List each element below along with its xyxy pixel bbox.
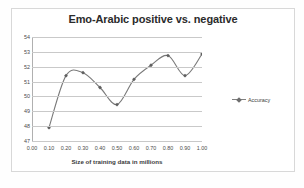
data-point-marker: [183, 74, 187, 78]
y-axis-tick-label: 53: [8, 49, 30, 55]
y-axis-tick-label: 48: [8, 123, 30, 129]
gridline: [32, 126, 202, 127]
y-axis-tick-label: 49: [8, 108, 30, 114]
accuracy-line: [49, 54, 202, 128]
y-axis-tick-label: 52: [8, 64, 30, 70]
gridline: [32, 67, 202, 68]
chart-title: Emo-Arabic positive vs. negative: [11, 13, 295, 25]
y-axis-tick-label: 54: [8, 34, 30, 40]
y-axis-tick-label: 50: [8, 93, 30, 99]
legend-entry-label: Accuracy: [248, 97, 270, 103]
chart-legend: Accuracy: [232, 96, 270, 103]
x-axis-title: Size of training data in millions: [32, 158, 202, 165]
y-axis-tick-label: 47: [8, 138, 30, 144]
gridline: [32, 111, 202, 112]
x-axis-tick-labels: 0.000.100.200.300.400.500.600.700.800.90…: [32, 145, 202, 155]
y-axis-tick-label: 51: [8, 79, 30, 85]
gridline: [32, 96, 202, 97]
gridline: [32, 52, 202, 53]
x-axis-tick-label: 1.00: [189, 145, 215, 151]
gridline: [32, 82, 202, 83]
data-point-marker: [81, 71, 85, 75]
accuracy-markers: [47, 52, 202, 129]
gridline: [32, 141, 202, 142]
y-axis-tick-labels: 4748495051525354: [8, 37, 30, 141]
chart-figure: Emo-Arabic positive vs. negative 4748495…: [0, 0, 304, 188]
legend-marker-icon: [232, 96, 246, 103]
plot-area: [32, 37, 202, 141]
gridline: [32, 37, 202, 38]
